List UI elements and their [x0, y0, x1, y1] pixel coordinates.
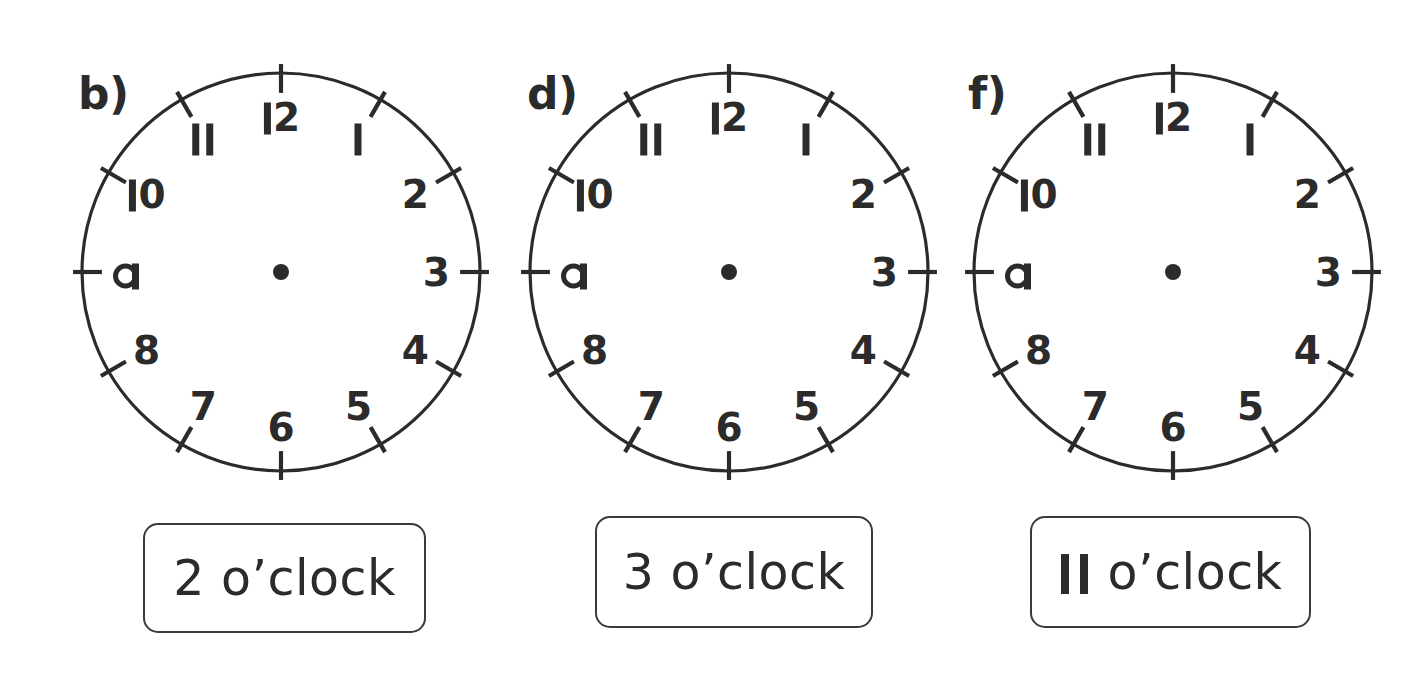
hour-numeral-8: 8	[1025, 330, 1052, 369]
clock-center-dot	[1165, 264, 1181, 280]
hour-numeral-3: 3	[871, 253, 898, 292]
hour-numeral-5: 5	[345, 387, 372, 426]
hour-numeral-3: 3	[1315, 253, 1342, 292]
hour-numeral-11	[191, 118, 217, 157]
digit-one-stroke	[1084, 123, 1091, 155]
hour-numeral-12: 2	[262, 97, 300, 136]
answer-box[interactable]: 2 o’clock	[143, 523, 426, 633]
hour-numeral-8: 8	[133, 330, 160, 369]
hour-numeral-5: 5	[1237, 387, 1264, 426]
digit-one-stroke	[1021, 180, 1028, 212]
digit-one-stroke	[192, 123, 199, 155]
hour-numeral-3: 3	[423, 253, 450, 292]
answer-text: o’clock	[1059, 548, 1283, 597]
hour-numeral-7: 7	[190, 387, 217, 426]
digit-one-stroke	[1155, 102, 1162, 134]
digit-one-stroke	[1080, 554, 1088, 594]
hour-numeral-1	[353, 118, 364, 157]
hour-numeral-9	[1005, 253, 1031, 292]
digit-nine-glyph	[113, 258, 139, 290]
hour-numeral-12: 2	[710, 97, 748, 136]
hour-numeral-8: 8	[581, 330, 608, 369]
hour-numeral-10: 0	[1019, 175, 1057, 214]
hour-numeral-9	[113, 253, 139, 292]
hour-numeral-4: 4	[850, 330, 877, 369]
digit-one-stroke	[1247, 123, 1254, 155]
answer-text: 2 o’clock	[173, 554, 396, 603]
hour-numeral-4: 4	[1294, 330, 1321, 369]
clock-center-dot	[721, 264, 737, 280]
hour-numeral-4: 4	[402, 330, 429, 369]
digit-one-stroke	[577, 180, 584, 212]
clock-center-dot	[273, 264, 289, 280]
hour-numeral-1	[1245, 118, 1256, 157]
hour-numeral-2: 2	[850, 175, 877, 214]
digit-one-stroke	[655, 123, 662, 155]
digit-one-stroke	[711, 102, 718, 134]
digit-one-stroke	[355, 123, 362, 155]
hour-numeral-6: 6	[1159, 408, 1186, 447]
answer-box[interactable]: 3 o’clock	[595, 516, 873, 628]
hour-numeral-5: 5	[793, 387, 820, 426]
digit-one-stroke	[803, 123, 810, 155]
digit-one-stroke	[129, 180, 136, 212]
answer-box[interactable]: o’clock	[1030, 516, 1311, 628]
digit-one-stroke	[1061, 554, 1069, 594]
hour-numeral-11	[639, 118, 665, 157]
digit-one-stroke	[207, 123, 214, 155]
hour-numeral-2: 2	[402, 175, 429, 214]
hour-numeral-10: 0	[575, 175, 613, 214]
hour-numeral-2: 2	[1294, 175, 1321, 214]
digit-nine-glyph	[561, 258, 587, 290]
digit-one-stroke	[1099, 123, 1106, 155]
digit-one-stroke	[640, 123, 647, 155]
hour-numeral-1	[801, 118, 812, 157]
hour-numeral-9	[561, 253, 587, 292]
hour-numeral-12: 2	[1154, 97, 1192, 136]
hour-numeral-7: 7	[638, 387, 665, 426]
hour-numeral-6: 6	[715, 408, 742, 447]
hour-numeral-6: 6	[267, 408, 294, 447]
digit-nine-glyph	[1005, 258, 1031, 290]
hour-numeral-10: 0	[127, 175, 165, 214]
hour-numeral-7: 7	[1082, 387, 1109, 426]
clock-worksheet: b)2345678022 o’clockd)2345678023 o’clock…	[0, 0, 1428, 678]
hour-numeral-11	[1083, 118, 1109, 157]
answer-text: 3 o’clock	[623, 548, 846, 597]
digit-one-stroke	[263, 102, 270, 134]
